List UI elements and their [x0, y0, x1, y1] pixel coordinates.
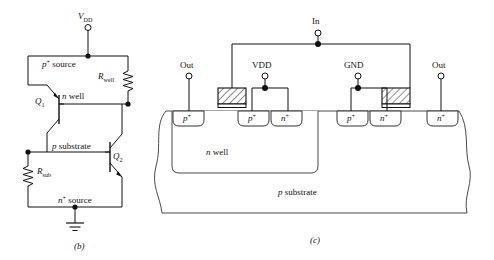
- q2-transistor: [105, 104, 122, 177]
- gate-pmos: [218, 88, 246, 108]
- node-dot-nwell: [125, 101, 130, 106]
- panel-b: VDD p+ source Rwell n well: [23, 11, 133, 251]
- out-right-label: Out: [432, 60, 446, 70]
- caption-b: (b): [74, 241, 85, 251]
- r-sub-resistor: [23, 163, 33, 190]
- vdd-strap: [252, 73, 288, 111]
- caption-c: (c): [310, 235, 320, 245]
- input-bus: [232, 30, 410, 88]
- out-left-label: Out: [180, 60, 194, 70]
- out-right-terminal[interactable]: [438, 73, 444, 79]
- in-terminal[interactable]: [315, 30, 321, 36]
- q1-label: Q1: [35, 96, 45, 108]
- p-plus-source-label: p+ source: [41, 58, 76, 69]
- vdd-label: VDD: [78, 11, 93, 23]
- n-well-region-label: n well: [206, 147, 229, 157]
- out-right-contact: [438, 73, 444, 111]
- gnd-terminal[interactable]: [355, 73, 361, 79]
- r-well-label: Rwell: [97, 71, 114, 83]
- r-well-resistor: [123, 68, 133, 95]
- gate-nmos: [382, 88, 410, 108]
- panel-c: n well p substrate p+ p+ n+ p+ n+ n+: [155, 16, 471, 245]
- n-plus-source-label: n+ source: [58, 194, 92, 205]
- p-substrate-label: p substrate: [51, 141, 91, 151]
- circuit-figure: VDD p+ source Rwell n well: [0, 0, 494, 260]
- vdd-label-c: VDD: [252, 60, 272, 70]
- vdd-terminal[interactable]: [85, 25, 91, 59]
- ground-symbol: [66, 204, 84, 230]
- out-left-terminal[interactable]: [186, 73, 192, 79]
- vdd-terminal-c[interactable]: [262, 73, 268, 79]
- figure-canvas: VDD p+ source Rwell n well: [0, 0, 494, 260]
- n-well-label: n well: [62, 91, 85, 101]
- out-left-contact: [186, 73, 192, 111]
- in-label: In: [312, 16, 320, 26]
- gnd-label: GND: [344, 60, 364, 70]
- q2-label: Q2: [113, 151, 123, 163]
- r-sub-label: Rsub: [36, 166, 51, 178]
- p-substrate-region-label: p substrate: [277, 187, 317, 197]
